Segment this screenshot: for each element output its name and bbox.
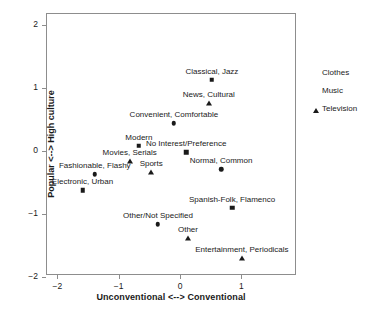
data-point-label: Classical, Jazz (185, 67, 238, 76)
y-tick-label: 1 (20, 82, 38, 92)
legend-marker-box (308, 66, 320, 78)
legend-item-clothes[interactable]: Clothes (308, 63, 357, 81)
data-point-label: Normal, Common (190, 156, 253, 165)
data-point-label: Other (178, 225, 198, 234)
legend-marker-box (308, 84, 320, 96)
legend-item-label: Television (322, 104, 357, 113)
square-marker-icon (230, 205, 235, 210)
triangle-marker-icon (239, 256, 245, 261)
circle-marker-icon (172, 121, 177, 126)
circle-marker-icon (219, 167, 224, 172)
data-point-label: Entertainment, Periodicals (195, 245, 288, 254)
data-point-label: Spanish-Folk, Flamenco (189, 195, 275, 204)
x-tick-mark (241, 275, 242, 279)
y-tick-label: −2 (20, 271, 38, 281)
square-marker-icon (210, 78, 215, 83)
y-tick-label: 0 (20, 145, 38, 155)
triangle-marker-icon (127, 159, 133, 164)
legend-item-music[interactable]: Music (308, 81, 357, 99)
data-point-label: Other/Not Specified (123, 211, 193, 220)
x-tick-label: 1 (229, 281, 253, 291)
x-axis-label: Unconventional <--> Conventional (46, 292, 296, 302)
triangle-marker-icon (206, 101, 212, 106)
legend: ClothesMusicTelevision (308, 63, 357, 117)
y-tick-mark (42, 277, 46, 278)
data-point-label: Convenient, Comfortable (130, 110, 219, 119)
y-axis-label: Popular <--> High culture (46, 44, 56, 244)
x-tick-label: 0 (168, 281, 192, 291)
legend-item-label: Clothes (322, 68, 349, 77)
y-tick-label: −1 (20, 208, 38, 218)
square-marker-icon (80, 188, 85, 193)
square-marker-icon (313, 90, 318, 95)
triangle-marker-icon (313, 108, 319, 113)
circle-marker-icon (313, 72, 318, 77)
x-tick-label: −2 (45, 281, 69, 291)
legend-marker-box (308, 102, 320, 114)
legend-item-television[interactable]: Television (308, 99, 357, 117)
y-tick-mark (42, 25, 46, 26)
triangle-marker-icon (148, 169, 154, 174)
circle-marker-icon (93, 172, 98, 177)
data-point-label: No Interest/Preference (146, 139, 226, 148)
circle-marker-icon (156, 222, 161, 227)
x-tick-mark (57, 275, 58, 279)
data-point-label: News, Cultural (183, 90, 235, 99)
data-point-label: Sports (140, 159, 163, 168)
data-point-label: Electronic, Urban (52, 177, 113, 186)
scatter-plot-figure: −2−101 210−1−2 Convenient, ComfortableFa… (0, 0, 372, 322)
square-marker-icon (184, 150, 189, 155)
data-point-label: Fashionable, Flashy (59, 161, 131, 170)
x-tick-label: −1 (107, 281, 131, 291)
legend-item-label: Music (322, 86, 343, 95)
x-tick-mark (180, 275, 181, 279)
data-point-label: Movies, Serials (103, 148, 157, 157)
y-tick-label: 2 (20, 19, 38, 29)
x-tick-mark (119, 275, 120, 279)
triangle-marker-icon (185, 235, 191, 240)
